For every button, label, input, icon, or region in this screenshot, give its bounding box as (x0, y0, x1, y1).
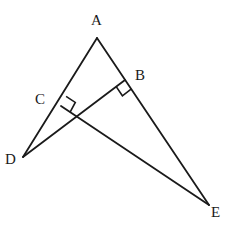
vertex-label-B: B (135, 68, 145, 83)
vertex-label-A: A (91, 13, 102, 28)
vertex-label-D: D (5, 152, 16, 167)
right-angle-mark-B (116, 87, 131, 96)
geometry-diagram: A B C D E (0, 0, 231, 227)
segment-A-E (97, 38, 209, 205)
segments-group (23, 38, 209, 205)
vertex-label-C: C (35, 92, 45, 107)
geometry-canvas (0, 0, 231, 227)
vertex-label-E: E (211, 205, 220, 220)
segment-C-E (61, 106, 209, 205)
